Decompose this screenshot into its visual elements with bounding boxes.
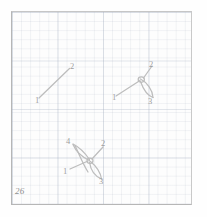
diagram-page: 1 2 1 2 3 4 2 1 3 26: [0, 0, 207, 217]
figure-3-label-4: 4: [66, 137, 70, 146]
figure-2-label-2: 2: [149, 60, 153, 69]
figure-3-label-2: 2: [101, 139, 105, 148]
figure-1-label-2: 2: [70, 62, 74, 71]
figure-2-label-3: 3: [148, 97, 152, 106]
figure-3-label-3: 3: [99, 177, 103, 186]
plate-number: 26: [15, 186, 25, 196]
figure-1-label-1: 1: [35, 96, 39, 105]
figure-2-label-1: 1: [112, 93, 116, 102]
figure-3-label-1: 1: [63, 167, 67, 176]
